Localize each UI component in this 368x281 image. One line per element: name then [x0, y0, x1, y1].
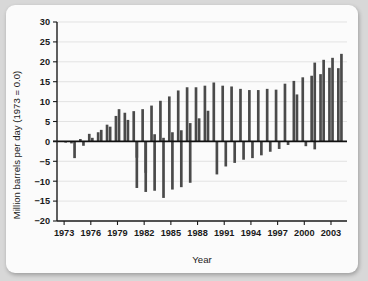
bar	[180, 141, 183, 187]
bar	[132, 111, 135, 141]
bar	[171, 141, 174, 189]
bar	[260, 141, 263, 155]
bar	[266, 89, 269, 142]
x-tick-label: 1985	[161, 228, 181, 238]
y-tick-label: 25	[40, 37, 50, 47]
y-tick-label: 30	[40, 17, 50, 27]
bar	[233, 141, 236, 162]
bar	[127, 120, 130, 141]
chart-plot-area: 302520151050−5−10−15−20 1973197619791982…	[6, 5, 358, 273]
bar	[115, 116, 118, 141]
y-tick-label: 20	[40, 57, 50, 67]
x-tick-label: 2003	[321, 228, 341, 238]
x-tick-label: 1997	[267, 228, 287, 238]
x-tick-label: 1979	[107, 228, 127, 238]
bar	[296, 94, 299, 141]
bar-chart-svg: 302520151050−5−10−15−20 1973197619791982…	[6, 5, 358, 273]
bar	[216, 141, 219, 174]
bar	[251, 141, 254, 158]
y-tick-label: −20	[34, 216, 50, 226]
bar	[242, 141, 245, 159]
bar	[212, 83, 215, 142]
bar	[337, 68, 340, 141]
bar	[106, 125, 109, 142]
bar	[109, 127, 112, 142]
bar	[284, 84, 287, 142]
bar	[319, 74, 322, 141]
bar	[207, 111, 210, 142]
bar	[136, 141, 139, 188]
bar	[230, 86, 233, 141]
bar	[177, 90, 180, 141]
bar	[153, 134, 156, 141]
bar	[73, 141, 76, 158]
bar	[186, 87, 189, 141]
bar	[331, 58, 334, 142]
x-tick-label: 1982	[134, 228, 154, 238]
bar	[195, 87, 198, 141]
bar	[144, 141, 147, 192]
bar	[189, 141, 192, 182]
bar	[124, 113, 127, 142]
x-axis-ticks: 1973197619791982198519881991199419972000…	[54, 221, 341, 238]
x-tick-label: 1991	[214, 228, 234, 238]
bar	[150, 106, 153, 142]
x-tick-label: 1976	[81, 228, 101, 238]
bar	[97, 132, 100, 141]
bar	[239, 89, 242, 142]
x-tick-label: 2000	[294, 228, 314, 238]
bar	[153, 141, 156, 190]
y-axis-ticks: 302520151050−5−10−15−20	[34, 17, 57, 226]
bar	[159, 101, 162, 142]
bar	[313, 141, 316, 149]
bar	[269, 141, 272, 151]
bars-group	[64, 54, 342, 198]
x-tick-label: 1994	[241, 228, 262, 238]
bar	[310, 76, 313, 142]
bar	[224, 141, 227, 166]
bar	[328, 68, 331, 142]
y-tick-label: 10	[40, 97, 50, 107]
bar	[278, 141, 281, 149]
bar	[340, 54, 343, 142]
y-tick-label: −15	[34, 196, 50, 206]
bar	[198, 118, 201, 141]
x-tick-label: 1973	[54, 228, 74, 238]
bar	[88, 134, 91, 142]
bar	[171, 132, 174, 141]
y-tick-label: −5	[40, 157, 50, 167]
bar	[248, 90, 251, 141]
bar	[322, 60, 325, 142]
y-axis-title: Million barrels per day (1973 = 0.0)	[11, 71, 22, 220]
x-axis-title: Year	[192, 254, 212, 265]
bar	[204, 86, 207, 142]
bar	[313, 63, 316, 142]
bar	[293, 81, 296, 141]
y-tick-label: 0	[45, 137, 50, 147]
bar	[275, 90, 278, 142]
x-tick-label: 1988	[187, 228, 207, 238]
bar	[301, 77, 304, 141]
bar	[141, 109, 144, 141]
bar	[180, 130, 183, 141]
bar	[118, 109, 121, 141]
bar	[168, 96, 171, 141]
y-tick-label: 5	[45, 117, 50, 127]
bar	[257, 90, 260, 141]
chart-card: 302520151050−5−10−15−20 1973197619791982…	[6, 5, 358, 273]
bar	[221, 86, 224, 142]
y-tick-label: 15	[40, 77, 50, 87]
bar	[162, 141, 165, 198]
y-tick-label: −10	[34, 177, 50, 187]
bar	[189, 123, 192, 141]
bar	[100, 130, 103, 142]
